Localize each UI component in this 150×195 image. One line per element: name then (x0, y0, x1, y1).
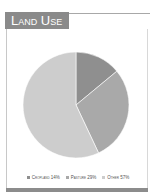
pie-chart (23, 52, 129, 158)
chart-title: Land Use (5, 12, 69, 29)
title-rule (69, 13, 150, 14)
faded-header-text (10, 0, 140, 5)
legend-label: Pasture 29% (71, 174, 96, 181)
footer-bar (6, 188, 148, 192)
legend-swatch (66, 176, 69, 179)
legend: Cropland 14% Pasture 29% Other 57% (18, 174, 138, 181)
legend-item-other: Other 57% (102, 174, 129, 181)
legend-item-cropland: Cropland 14% (27, 174, 60, 181)
legend-label: Other 57% (107, 174, 129, 181)
legend-label: Cropland 14% (32, 174, 60, 181)
legend-swatch (27, 176, 30, 179)
legend-item-pasture: Pasture 29% (66, 174, 96, 181)
legend-swatch (102, 176, 105, 179)
